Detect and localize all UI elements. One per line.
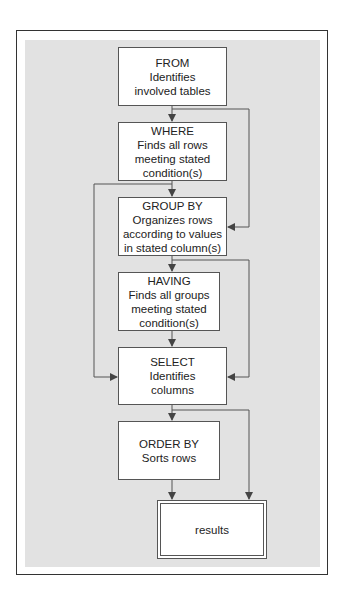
node-text: Sorts rows xyxy=(142,451,196,465)
node-text: Finds all rows xyxy=(137,138,207,152)
node-where: WHERE Finds all rows meeting stated cond… xyxy=(118,122,227,181)
node-text: meeting stated xyxy=(131,302,206,316)
node-title: ORDER BY xyxy=(139,437,199,451)
node-having: HAVING Finds all groups meeting stated c… xyxy=(118,272,220,331)
node-text: Organizes rows xyxy=(133,213,213,227)
results-label: results xyxy=(160,503,264,556)
node-text: in stated column(s) xyxy=(124,241,221,255)
node-from: FROM Identifies involved tables xyxy=(118,47,227,106)
node-text: condition(s) xyxy=(139,316,198,330)
node-select: SELECT Identifies columns xyxy=(118,347,227,405)
node-text: Finds all groups xyxy=(128,288,209,302)
node-text: according to values xyxy=(123,227,222,241)
node-title: FROM xyxy=(156,56,190,70)
node-results: results xyxy=(157,500,267,559)
node-text: Identifies xyxy=(149,70,195,84)
node-text: involved tables xyxy=(134,84,210,98)
node-text: columns xyxy=(151,383,194,397)
node-text: condition(s) xyxy=(143,166,202,180)
node-title: WHERE xyxy=(151,124,194,138)
node-title: GROUP BY xyxy=(142,199,203,213)
node-text: meeting stated xyxy=(135,152,210,166)
node-text: Identifies xyxy=(149,369,195,383)
node-group-by: GROUP BY Organizes rows according to val… xyxy=(118,197,227,256)
node-title: HAVING xyxy=(147,274,190,288)
node-title: SELECT xyxy=(150,355,195,369)
node-order-by: ORDER BY Sorts rows xyxy=(118,421,220,480)
